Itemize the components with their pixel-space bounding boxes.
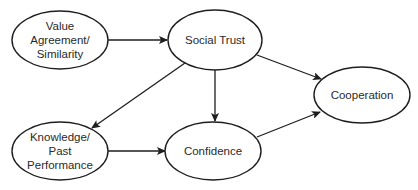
label-value-agreement: Value Agreement/ Similarity [30, 19, 89, 61]
label-knowledge: Knowledge/ Past Performance [27, 130, 93, 172]
label-confidence: Confidence [184, 144, 242, 158]
label-line: Agreement/ [30, 33, 89, 47]
label-line: Knowledge/ [27, 130, 93, 144]
label-line: Cooperation [331, 88, 394, 102]
label-line: Performance [27, 158, 93, 172]
edge-confidence-to-cooperation [257, 112, 320, 137]
edge-trust-to-knowledge [92, 63, 185, 128]
label-line: Similarity [30, 47, 89, 61]
label-line: Social Trust [185, 33, 245, 47]
edge-trust-to-cooperation [257, 55, 321, 79]
label-social-trust: Social Trust [185, 33, 245, 47]
label-line: Value [30, 19, 89, 33]
label-line: Past [27, 144, 93, 158]
label-cooperation: Cooperation [331, 88, 394, 102]
label-line: Confidence [184, 144, 242, 158]
